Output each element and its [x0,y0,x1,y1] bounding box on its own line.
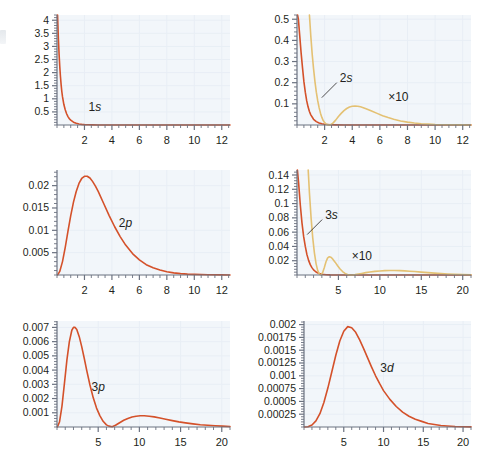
x-tick-label: 8 [164,134,170,146]
y-tick-label: 0.001 [23,406,49,418]
y-tick-label: 0.5 [274,13,289,25]
x-tick-label: 12 [216,134,228,146]
x-tick-label: 4 [349,134,355,146]
y-tick-label: 1 [43,92,49,104]
x-tick-label: 6 [377,134,383,146]
y-tick-label: 0.00125 [258,356,296,368]
annotation-x10: ×10 [388,90,409,104]
x-tick-label: 10 [377,436,389,448]
x-tick-label: 4 [109,134,115,146]
plot-background [297,170,471,275]
panel-3d: 51015200.000250.00050.000750.0010.001250… [242,303,483,461]
panel-1s: 246810120.511.522.533.541s [0,0,242,155]
x-tick-label: 5 [341,436,347,448]
plot-background [297,15,471,125]
panel-2p-svg: 246810120.0050.010.0150.022p [0,152,242,307]
y-tick-label: 4 [43,14,49,26]
y-tick-label: 0.003 [23,378,49,390]
y-tick-label: 0.001 [270,369,296,381]
radial-distribution-figure: 246810120.511.522.533.541s246810120.10.2… [0,0,483,461]
y-tick-label: 0.08 [269,211,290,223]
x-tick-label: 8 [404,134,410,146]
y-tick-label: 0.5 [34,105,49,117]
y-tick-label: 0.1 [274,197,289,209]
y-tick-label: 0.2 [274,76,289,88]
y-tick-label: 0.015 [23,201,49,213]
panel-3p-svg: 51015200.0010.0020.0030.0040.0050.0060.0… [0,303,242,461]
x-tick-label: 10 [429,134,441,146]
y-tick-label: 0.00075 [258,382,296,394]
panel-3p: 51015200.0010.0020.0030.0040.0050.0060.0… [0,303,242,461]
x-tick-label: 2 [81,134,87,146]
y-tick-label: 0.06 [269,226,290,238]
x-tick-label: 10 [374,284,386,296]
x-tick-label: 4 [109,284,115,296]
y-tick-label: 0.0005 [264,395,296,407]
panel-3s: 51015200.020.040.060.080.10.120.143s×10 [242,152,483,307]
x-tick-label: 15 [415,284,427,296]
y-tick-label: 2.5 [34,53,49,65]
y-tick-label: 0.02 [29,179,50,191]
panel-2s: 246810120.10.20.30.40.52s×10 [242,0,483,155]
x-tick-label: 15 [174,436,186,448]
x-tick-label: 6 [136,284,142,296]
x-tick-label: 15 [417,436,429,448]
y-tick-label: 0.005 [23,349,49,361]
y-tick-label: 0.002 [23,392,49,404]
y-tick-label: 0.004 [23,364,49,376]
panel-3d-svg: 51015200.000250.00050.000750.0010.001250… [242,303,483,461]
y-tick-label: 0.00025 [258,408,296,420]
annotation-x10: ×10 [352,249,373,263]
x-tick-label: 12 [457,134,469,146]
panel-1s-svg: 246810120.511.522.533.541s [0,0,242,155]
y-tick-label: 0.4 [274,34,289,46]
x-tick-label: 5 [335,284,341,296]
x-tick-label: 8 [164,284,170,296]
y-tick-label: 0.01 [29,224,50,236]
annotation-3d: 3d [380,361,394,375]
y-tick-label: 0.04 [269,240,290,252]
x-tick-label: 2 [322,134,328,146]
y-tick-label: 1.5 [34,79,49,91]
y-tick-label: 0.12 [269,183,290,195]
annotation-3p: 3p [92,380,106,394]
x-tick-label: 6 [136,134,142,146]
plot-background [57,15,230,125]
x-tick-label: 12 [216,284,228,296]
x-tick-label: 20 [216,436,228,448]
annotation-2p: 2p [119,216,133,230]
y-tick-label: 3 [43,40,49,52]
y-tick-label: 0.0015 [264,344,296,356]
x-tick-label: 20 [457,436,469,448]
x-tick-label: 5 [95,436,101,448]
plot-background [57,321,230,427]
x-tick-label: 10 [188,284,200,296]
x-tick-label: 20 [457,284,469,296]
y-tick-label: 0.002 [270,318,296,330]
y-tick-label: 0.02 [269,254,290,266]
panel-3s-svg: 51015200.020.040.060.080.10.120.143s×10 [242,152,483,307]
x-tick-label: 2 [81,284,87,296]
y-tick-label: 0.00175 [258,331,296,343]
annotation-2s: 2s [340,71,353,85]
y-tick-label: 2 [43,66,49,78]
y-tick-label: 0.3 [274,55,289,67]
x-tick-label: 10 [133,436,145,448]
annotation-1s: 1s [89,100,102,114]
y-tick-label: 0.007 [23,321,49,333]
y-tick-label: 0.1 [274,97,289,109]
annotation-3s: 3s [325,208,338,222]
panel-2s-svg: 246810120.10.20.30.40.52s×10 [242,0,483,155]
y-tick-label: 0.006 [23,335,49,347]
y-tick-label: 3.5 [34,27,49,39]
y-tick-label: 0.005 [23,246,49,258]
y-tick-label: 0.14 [269,169,290,181]
x-tick-label: 10 [188,134,200,146]
panel-2p: 246810120.0050.010.0150.022p [0,152,242,307]
